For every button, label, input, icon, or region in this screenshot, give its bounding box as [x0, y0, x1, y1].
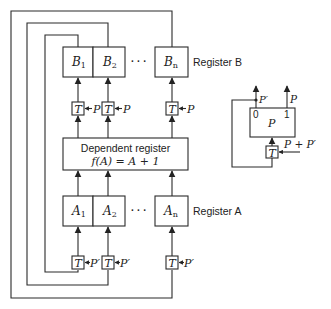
register-transfer-diagram: B1 B2 Bn · · · Register B T T T P P P De…	[0, 0, 331, 309]
output-0-label: P′	[258, 94, 269, 105]
register-b: B1 B2 Bn · · · Register B	[63, 47, 242, 77]
output-1-label: P	[289, 93, 298, 105]
register-a-label: Register A	[193, 205, 241, 217]
pulse-flipflop: P′ P 0 1 P T P + P′	[232, 86, 317, 167]
pulse-p-label: P	[122, 103, 131, 116]
pulse-p-prime-label: P′	[89, 257, 100, 270]
ellipsis: · · ·	[131, 205, 147, 216]
flipflop-p-label: P	[267, 117, 276, 130]
gates-b: T T T P P P	[72, 102, 195, 116]
dependent-register: Dependent register f(A) = A + 1	[63, 138, 188, 170]
input-pulse-label: P + P′	[283, 138, 317, 150]
pulse-p-label: P	[186, 103, 195, 116]
output-0-terminal: 0	[253, 109, 259, 120]
register-a: A1 A2 An · · · Register A	[63, 196, 241, 226]
ellipsis: · · ·	[131, 56, 147, 67]
pulse-p-label: P	[92, 103, 101, 116]
register-b-label: Register B	[193, 56, 242, 68]
pulse-p-prime-label: P′	[183, 257, 194, 270]
output-1-terminal: 1	[284, 109, 290, 120]
dependent-register-function: f(A) = A + 1	[91, 155, 160, 168]
dependent-register-title: Dependent register	[81, 142, 171, 154]
gates-a: T T T P′ P′ P′	[72, 256, 194, 270]
pulse-p-prime-label: P′	[119, 257, 130, 270]
